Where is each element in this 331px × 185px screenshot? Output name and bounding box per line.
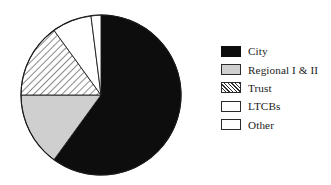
legend-item-trust: Trust	[221, 79, 331, 97]
legend-item-other: Other	[221, 116, 331, 134]
legend-item-label: Other	[248, 119, 274, 131]
chart-legend: City Regional I & II Trust LTCBs Other	[221, 42, 331, 134]
legend-item-label: City	[248, 45, 268, 57]
hatch-pattern-fill	[221, 82, 241, 93]
pie-chart-plot	[0, 0, 210, 185]
legend-item-label: LTCBs	[248, 100, 280, 112]
legend-item-regional: Regional I & II	[221, 60, 331, 78]
solid-white-swatch-icon	[221, 119, 241, 130]
legend-item-label: Regional I & II	[248, 64, 318, 76]
pie-chart-figure: City Regional I & II Trust LTCBs Other	[0, 0, 331, 185]
solid-black-swatch-icon	[221, 46, 241, 57]
diagonal-hatch-swatch-icon	[221, 82, 241, 93]
legend-item-label: Trust	[248, 82, 272, 94]
solid-white-swatch-icon	[221, 101, 241, 112]
legend-item-ltcbs: LTCBs	[221, 97, 331, 115]
solid-gray-swatch-icon	[221, 64, 241, 75]
legend-item-city: City	[221, 42, 331, 60]
